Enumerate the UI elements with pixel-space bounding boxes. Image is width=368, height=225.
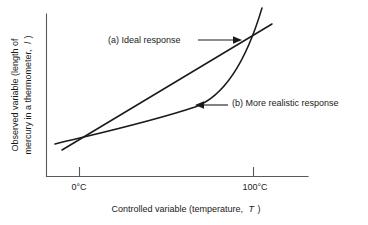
x-axis-title-symbol: T (249, 204, 256, 214)
y-axis-title-line2-main: mercury in a thermometer, (23, 49, 33, 154)
x-tick-label-0c: 0°C (71, 182, 87, 192)
x-tick-label-100c: 100°C (242, 182, 268, 192)
x-axis-title-main: Controlled variable (temperature, (111, 204, 243, 214)
annotation-label-realistic-response: (b) More realistic response (232, 98, 339, 108)
y-axis-title-line2-close: ) (23, 35, 33, 38)
y-axis-title-line2-symbol: l (23, 41, 33, 44)
x-axis-title-close: ) (258, 204, 261, 214)
chart-background (0, 0, 368, 225)
annotation-label-ideal-response: (a) Ideal response (108, 35, 181, 45)
x-axis-title: Controlled variable (temperature, T ) (111, 204, 260, 214)
y-axis-title-line1: Observed variable (length of (10, 38, 20, 152)
y-axis-title-line2: mercury in a thermometer, l ) (23, 35, 33, 154)
thermometer-response-chart: 0°C 100°C Controlled variable (temperatu… (0, 0, 368, 225)
